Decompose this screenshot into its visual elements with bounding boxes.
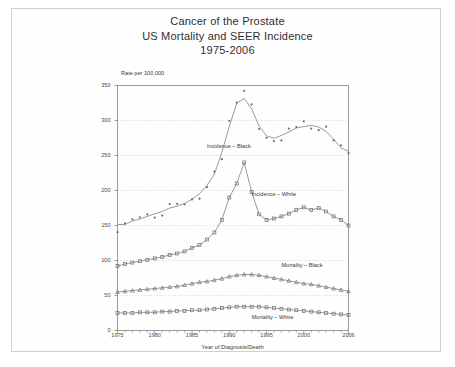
x-tick-label: 2000 [291,332,317,338]
series-point [116,231,118,233]
series-point [183,203,185,205]
x-tick-label: 1990 [216,332,242,338]
x-tick-label: 1980 [142,332,168,338]
y-tick-label: 300 [95,117,111,123]
series-point [280,139,282,141]
series-point [176,203,178,205]
series-annotation-label: Mortality – White [252,314,294,320]
series-point [221,158,223,160]
series-point [213,170,215,172]
series-point [124,222,126,224]
y-tick-label: 200 [95,187,111,193]
series-point [295,126,297,128]
series-annotation-label: Incidence – White [252,191,296,197]
series-point [139,216,141,218]
series-point [236,101,238,103]
x-tick-label: 1975 [105,332,131,338]
series-point [340,144,342,146]
plot-frame [118,86,349,331]
y-tick-label: 150 [95,222,111,228]
series-annotation-label: Incidence – Black [207,143,251,149]
y-tick-label: 100 [95,257,111,263]
series-point [146,213,148,215]
series-point [332,139,334,141]
series-line [118,307,349,315]
x-tick-label: 1995 [254,332,280,338]
series-point [243,90,245,92]
series-point [251,103,253,105]
series-point [198,198,200,200]
series-point [318,129,320,131]
series-point [131,218,133,220]
series-annotation-label: Mortality – Black [281,262,322,268]
x-tick-label: 2006 [336,332,362,338]
chart-svg [0,0,455,367]
series-point [154,216,156,218]
y-tick-label: 50 [95,292,111,298]
series-point [288,128,290,130]
series-point [228,120,230,122]
series-point [206,186,208,188]
series-point [191,198,193,200]
x-tick-label: 1985 [179,332,205,338]
series-point [310,127,312,129]
series-line [118,98,349,224]
series-point [169,203,171,205]
y-tick-label: 250 [95,152,111,158]
series-line [118,163,349,267]
series-point [303,120,305,122]
series-point [273,140,275,142]
series-point [347,152,349,154]
series-point [325,126,327,128]
series-point [161,214,163,216]
series-point [258,128,260,130]
series-line [118,275,349,293]
y-tick-label: 350 [95,82,111,88]
chart-plot-area [0,0,455,367]
series-point [265,137,267,139]
